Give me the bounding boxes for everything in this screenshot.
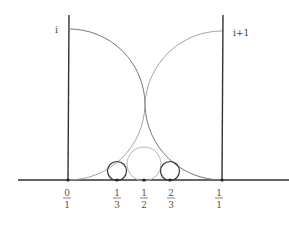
farey-diagram: i i+1 0 1 1 3 1 2 2 3 1 1 xyxy=(0,0,289,227)
svg-text:0: 0 xyxy=(64,188,70,198)
svg-text:1: 1 xyxy=(114,188,120,198)
arc-from-i-plus-1 xyxy=(68,31,222,180)
point-half xyxy=(142,178,145,181)
point-0 xyxy=(66,178,69,181)
point-1 xyxy=(220,178,223,181)
tick-label-1-1: 1 1 xyxy=(215,188,223,210)
point-two-thirds xyxy=(168,178,171,181)
circle-half xyxy=(127,147,161,181)
vertical-line-0 xyxy=(68,15,69,180)
svg-text:3: 3 xyxy=(168,200,174,210)
svg-text:3: 3 xyxy=(114,200,120,210)
circle-third xyxy=(108,162,127,181)
label-i: i xyxy=(55,25,58,35)
vertical-line-1 xyxy=(222,15,223,180)
tick-label-0-1: 0 1 xyxy=(63,188,71,210)
svg-text:1: 1 xyxy=(216,200,222,210)
svg-text:2: 2 xyxy=(141,200,147,210)
label-i-plus-1: i+1 xyxy=(233,28,249,38)
svg-text:1: 1 xyxy=(216,188,222,198)
svg-text:1: 1 xyxy=(141,188,147,198)
point-third xyxy=(115,178,118,181)
circle-two-thirds xyxy=(161,162,180,181)
tick-label-2-3: 2 3 xyxy=(167,188,175,210)
tick-label-1-3: 1 3 xyxy=(113,188,121,210)
tick-label-1-2: 1 2 xyxy=(140,188,148,210)
svg-text:1: 1 xyxy=(64,200,70,210)
svg-text:2: 2 xyxy=(168,188,174,198)
